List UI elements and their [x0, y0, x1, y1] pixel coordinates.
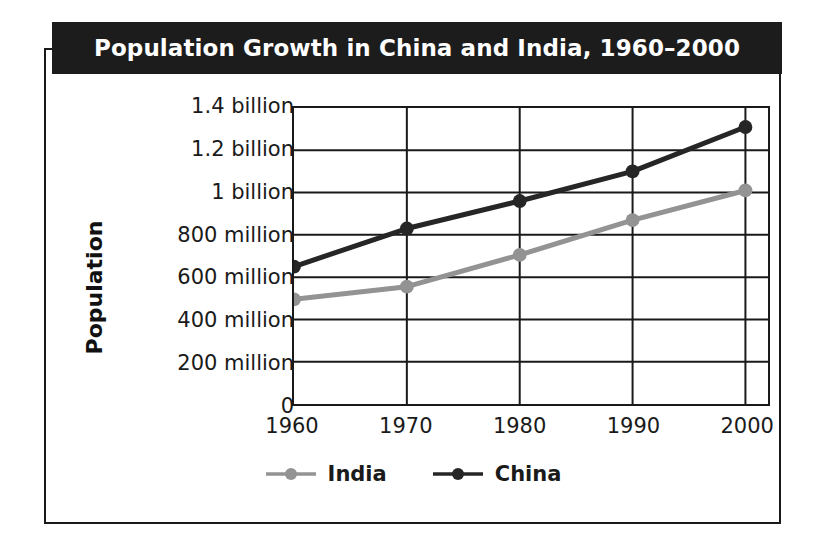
series-layer: [294, 120, 752, 306]
data-point: [738, 184, 752, 198]
data-point: [626, 165, 640, 179]
x-axis-tick-label: 1970: [361, 414, 451, 438]
legend-label: India: [328, 462, 387, 486]
data-point: [513, 194, 527, 208]
y-axis-title-text: Population: [83, 220, 108, 354]
data-point: [294, 260, 301, 274]
chart-title-banner: Population Growth in China and India, 19…: [52, 22, 782, 74]
data-point: [513, 248, 527, 262]
y-axis-tick-label: 400 million: [114, 310, 294, 331]
chart-legend: IndiaChina: [44, 454, 781, 494]
x-axis-tick-label: 2000: [702, 414, 792, 438]
data-point: [738, 120, 752, 134]
chart-figure: Population Growth in China and India, 19…: [44, 22, 782, 524]
y-axis-tick-label: 600 million: [114, 267, 294, 288]
plot-area: [292, 106, 770, 406]
data-point: [400, 222, 414, 236]
data-point: [626, 213, 640, 227]
y-axis-tick-label: 1 billion: [114, 181, 294, 202]
x-axis-tick-label: 1960: [247, 414, 337, 438]
gridlines: [294, 108, 768, 404]
x-axis-tick-labels: 19601970198019902000: [292, 414, 770, 448]
legend-item-china[interactable]: China: [431, 462, 562, 486]
legend-label: China: [495, 462, 562, 486]
page-title: Population Growth in China and India, 19…: [94, 35, 740, 61]
y-axis-title: Population: [80, 177, 110, 397]
y-axis-tick-label: 1.4 billion: [114, 96, 294, 117]
legend-item-india[interactable]: India: [264, 462, 387, 486]
x-axis-tick-label: 1980: [475, 414, 565, 438]
legend-marker-icon: [264, 466, 318, 482]
data-point: [400, 280, 414, 294]
x-axis-tick-label: 1990: [588, 414, 678, 438]
data-point: [294, 292, 301, 306]
y-axis-tick-label: 200 million: [114, 353, 294, 374]
legend-marker-icon: [431, 466, 485, 482]
y-axis-tick-labels: 1.4 billion1.2 billion1 billion800 milli…: [114, 106, 294, 406]
y-axis-tick-label: 800 million: [114, 224, 294, 245]
plot-svg: [294, 108, 768, 404]
y-axis-tick-label: 1.2 billion: [114, 138, 294, 159]
